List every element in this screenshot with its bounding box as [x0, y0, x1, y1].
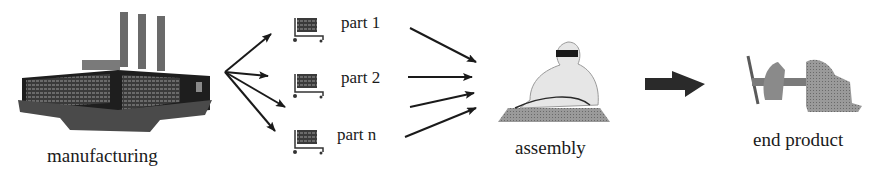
cart-icon: [293, 18, 323, 43]
end-product-label: end product: [753, 130, 843, 149]
cart-icon: [293, 74, 323, 99]
block-arrow-icon: [645, 71, 705, 97]
vise-icon: [748, 56, 862, 112]
part-n-label: part n: [337, 126, 376, 143]
manufacturing-label: manufacturing: [47, 146, 158, 165]
factory-icon: [18, 12, 212, 132]
fan-in-arrows: [405, 28, 476, 137]
fan-out-arrows: [225, 34, 285, 131]
cart-icon: [293, 130, 323, 155]
part-1-label: part 1: [341, 14, 380, 31]
assembly-label: assembly: [515, 138, 586, 157]
part-2-label: part 2: [341, 69, 380, 86]
worker-icon: [498, 42, 610, 122]
